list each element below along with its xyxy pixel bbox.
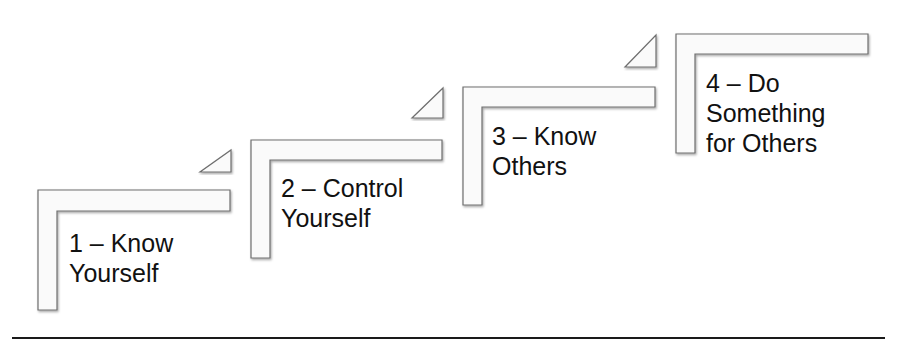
step-1-line-1: 1 – Know — [69, 228, 173, 258]
step-4-line-2: Something — [706, 98, 826, 128]
staircase-shapes — [0, 0, 901, 346]
step-1-triangle — [200, 150, 231, 172]
step-1-label: 1 – Know Yourself — [69, 228, 173, 288]
step-3-triangle — [625, 35, 656, 67]
step-4-line-1: 4 – Do — [706, 68, 826, 98]
step-2-line-2: Yourself — [281, 203, 403, 233]
step-3-line-2: Others — [492, 151, 596, 181]
step-1-line-2: Yourself — [69, 258, 173, 288]
step-4-line-3: for Others — [706, 128, 826, 158]
step-4-label: 4 – Do Something for Others — [706, 68, 826, 158]
step-3-label: 3 – Know Others — [492, 121, 596, 181]
step-2-triangle — [412, 88, 443, 118]
step-2-label: 2 – Control Yourself — [281, 173, 403, 233]
step-2-line-1: 2 – Control — [281, 173, 403, 203]
step-3-line-1: 3 – Know — [492, 121, 596, 151]
